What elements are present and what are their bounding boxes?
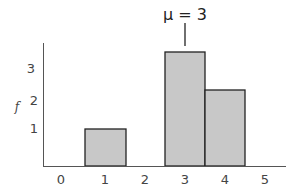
bar-4 [205, 90, 245, 166]
histogram-chart: 3 2 1 f 0 1 2 3 4 5 μ = 3 [0, 0, 291, 190]
x-tick-2: 2 [141, 172, 149, 187]
x-tick-5: 5 [261, 172, 269, 187]
bars [85, 52, 245, 166]
mean-annotation: μ = 3 [163, 5, 207, 24]
bar-3 [165, 52, 205, 166]
y-tick-3: 3 [27, 61, 35, 76]
x-tick-4: 4 [221, 172, 229, 187]
x-tick-3: 3 [181, 172, 189, 187]
bar-1 [85, 129, 126, 166]
y-tick-2: 2 [30, 93, 38, 108]
y-axis-label: f [14, 100, 22, 114]
x-tick-1: 1 [101, 172, 109, 187]
y-tick-1: 1 [30, 121, 38, 136]
x-tick-0: 0 [57, 172, 65, 187]
